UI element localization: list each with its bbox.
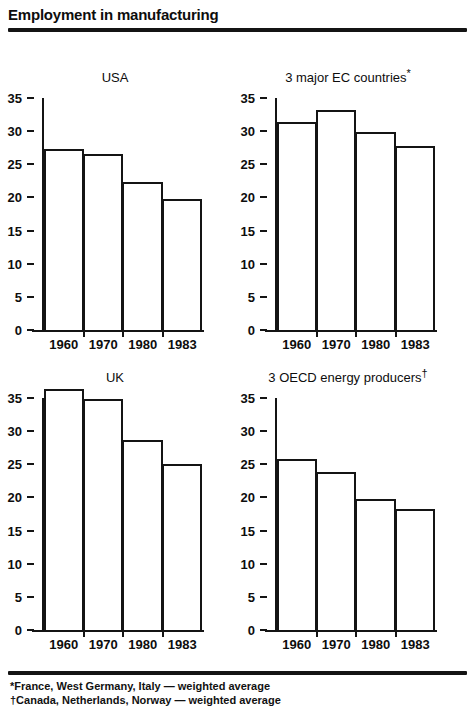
y-axis-tick-mark xyxy=(260,596,267,598)
bar-1983 xyxy=(395,146,436,332)
bar-1970 xyxy=(83,154,124,332)
y-axis-tick-label: 35 xyxy=(8,392,22,405)
x-axis-tick-label: 1980 xyxy=(128,636,157,654)
y-axis-tick-mark xyxy=(260,196,267,198)
y-axis-tick-mark xyxy=(27,163,34,165)
chart-ec: 3 major EC countries* 051015202530351960… xyxy=(233,68,463,360)
y-axis-labels: 05101520253035 xyxy=(233,88,267,360)
y-axis-tick-mark xyxy=(260,97,267,99)
y-axis-tick-mark xyxy=(27,130,34,132)
x-axis-tick-label: 1980 xyxy=(128,336,157,354)
chart-title-usa: USA xyxy=(0,68,230,88)
x-axis-line xyxy=(265,630,437,632)
y-axis-tick-label: 15 xyxy=(8,224,22,237)
y-axis-tick-mark xyxy=(27,196,34,198)
y-axis-tick-mark xyxy=(27,563,34,565)
bar-1960 xyxy=(277,122,317,332)
page-title: Employment in manufacturing xyxy=(0,0,473,23)
y-axis-tick-label: 30 xyxy=(8,425,22,438)
bar-1980 xyxy=(355,132,396,332)
y-axis-tick-mark xyxy=(27,397,34,399)
y-axis-tick-label: 25 xyxy=(241,458,255,471)
y-axis-tick-label: 20 xyxy=(241,491,255,504)
y-axis-tick-mark xyxy=(27,530,34,532)
plot-area-usa: 051015202530351960197019801983 xyxy=(0,88,230,360)
chart-usa: USA 051015202530351960197019801983 xyxy=(0,68,230,360)
y-axis-tick-label: 5 xyxy=(248,290,255,303)
y-axis-tick-label: 30 xyxy=(241,425,255,438)
y-axis-tick-label: 25 xyxy=(241,158,255,171)
footer-rule xyxy=(8,671,467,675)
y-axis-labels: 05101520253035 xyxy=(233,388,267,660)
y-axis-tick-mark xyxy=(27,496,34,498)
x-axis-labels: 1960197019801983 xyxy=(0,636,230,654)
y-axis-tick-label: 5 xyxy=(15,290,22,303)
x-axis-tick-label: 1980 xyxy=(361,336,390,354)
chart-title-text: USA xyxy=(102,70,129,85)
x-axis-tick-label: 1960 xyxy=(49,636,78,654)
bar-1960 xyxy=(44,389,84,632)
x-axis-tick-label: 1960 xyxy=(282,336,311,354)
plot-area-uk: 051015202530351960197019801983 xyxy=(0,388,230,660)
x-axis-labels: 1960197019801983 xyxy=(233,336,463,354)
x-axis-labels: 1960197019801983 xyxy=(0,336,230,354)
y-axis-tick-label: 15 xyxy=(241,524,255,537)
chart-oecd: 3 OECD energy producers† 051015202530351… xyxy=(233,368,463,660)
chart-title-ec: 3 major EC countries* xyxy=(233,68,463,88)
y-axis-tick-label: 30 xyxy=(8,125,22,138)
x-axis-line xyxy=(32,630,204,632)
y-axis-tick-label: 10 xyxy=(8,257,22,270)
x-axis-line xyxy=(32,330,204,332)
y-axis-tick-label: 15 xyxy=(8,524,22,537)
chart-title-superscript: † xyxy=(422,367,428,379)
y-axis-tick-label: 0 xyxy=(15,624,22,637)
x-axis-tick-label: 1983 xyxy=(401,636,430,654)
bar-1960 xyxy=(277,459,317,632)
x-axis-line xyxy=(265,330,437,332)
y-axis-tick-label: 20 xyxy=(241,191,255,204)
y-axis-tick-mark xyxy=(260,296,267,298)
y-axis-labels: 05101520253035 xyxy=(0,388,34,660)
bar-1983 xyxy=(395,509,436,632)
y-axis-tick-mark xyxy=(260,496,267,498)
footnote-dagger: †Canada, Netherlands, Norway — weighted … xyxy=(10,693,281,707)
y-axis-tick-label: 10 xyxy=(241,257,255,270)
y-axis-tick-label: 10 xyxy=(241,557,255,570)
x-axis-tick-label: 1983 xyxy=(168,636,197,654)
y-axis-tick-mark xyxy=(260,430,267,432)
y-axis-tick-label: 0 xyxy=(248,324,255,337)
chart-title-superscript: * xyxy=(407,67,411,79)
chart-uk: UK 051015202530351960197019801983 xyxy=(0,368,230,660)
x-axis-tick-label: 1983 xyxy=(401,336,430,354)
y-axis-tick-label: 25 xyxy=(8,158,22,171)
y-axis-tick-mark xyxy=(260,130,267,132)
bar-1983 xyxy=(162,464,203,632)
y-axis-tick-mark xyxy=(260,563,267,565)
x-axis-tick-label: 1970 xyxy=(322,336,351,354)
bar-1983 xyxy=(162,199,203,332)
y-axis-tick-label: 35 xyxy=(8,92,22,105)
bar-1960 xyxy=(44,149,84,332)
footnotes: *France, West Germany, Italy — weighted … xyxy=(10,679,281,707)
y-axis-tick-label: 0 xyxy=(248,624,255,637)
y-axis-tick-label: 30 xyxy=(241,125,255,138)
y-axis-tick-label: 20 xyxy=(8,191,22,204)
chart-title-text: UK xyxy=(106,370,124,385)
x-axis-tick-label: 1983 xyxy=(168,336,197,354)
x-axis-tick-label: 1970 xyxy=(89,636,118,654)
y-axis-tick-label: 35 xyxy=(241,392,255,405)
y-axis-tick-label: 0 xyxy=(15,324,22,337)
y-axis-tick-mark xyxy=(260,230,267,232)
y-axis-tick-label: 20 xyxy=(8,491,22,504)
y-axis-tick-mark xyxy=(27,230,34,232)
x-axis-labels: 1960197019801983 xyxy=(233,636,463,654)
charts-grid: USA 051015202530351960197019801983 3 maj… xyxy=(0,32,473,662)
y-axis-tick-mark xyxy=(27,463,34,465)
chart-title-text: 3 OECD energy producers xyxy=(268,370,421,385)
y-axis-tick-mark xyxy=(260,463,267,465)
x-axis-tick-label: 1970 xyxy=(89,336,118,354)
y-axis-tick-mark xyxy=(260,530,267,532)
plot-area-oecd: 051015202530351960197019801983 xyxy=(233,388,463,660)
bar-1980 xyxy=(355,499,396,632)
y-axis-tick-label: 10 xyxy=(8,557,22,570)
